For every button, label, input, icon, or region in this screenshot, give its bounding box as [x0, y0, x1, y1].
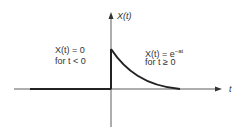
right-condition: for t ≥ 0 — [145, 57, 175, 67]
right-equation-exponent: −at — [175, 48, 184, 54]
left-condition: for t < 0 — [55, 56, 86, 66]
y-axis-label: X(t) — [117, 11, 132, 21]
left-equation: X(t) = 0 — [55, 45, 85, 55]
x-axis-label: t — [229, 84, 232, 94]
signal-figure: X(t) t X(t) = 0 for t < 0 X(t) = e−at fo… — [0, 0, 243, 134]
x-axis-arrow-icon — [215, 87, 222, 92]
y-axis-arrow-icon — [109, 12, 114, 19]
